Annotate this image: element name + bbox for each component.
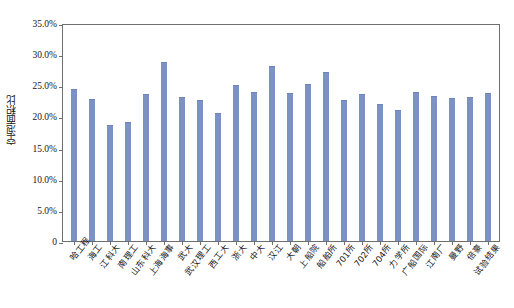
bar[interactable] (143, 94, 149, 241)
y-axis-tick-label: 5.0% (37, 206, 57, 216)
y-axis-tick-label: 20.0% (32, 112, 57, 122)
bar-slot (209, 25, 227, 241)
bar-slot (371, 25, 389, 241)
bar-chart: 空泡面积比 05.0%10.0%15.0%20.0%25.0%30.0%35.0… (0, 0, 514, 308)
bar[interactable] (215, 113, 221, 241)
y-axis-tick-mark (59, 212, 63, 213)
bar-slot (299, 25, 317, 241)
bar-slot (461, 25, 479, 241)
bar[interactable] (287, 93, 293, 241)
y-axis-tick-mark (59, 25, 63, 26)
bar-slot (119, 25, 137, 241)
bar-slot (353, 25, 371, 241)
x-axis-tick-labels: 哈工程海工江科大南理工山东科大上海海事武大武汉理工西工大浙大中大汉江大朝上船院船… (62, 243, 500, 308)
plot-area (62, 24, 500, 242)
y-axis-tick-label: 25.0% (32, 81, 57, 91)
bar-slot (173, 25, 191, 241)
bar-slot (155, 25, 173, 241)
bar-slot (407, 25, 425, 241)
bar[interactable] (269, 66, 275, 241)
bar[interactable] (89, 99, 95, 241)
bar[interactable] (323, 72, 329, 241)
y-axis-title: 空泡面积比 (6, 95, 22, 145)
bar-slot (83, 25, 101, 241)
bar[interactable] (197, 100, 203, 241)
bar[interactable] (359, 94, 365, 241)
bar[interactable] (485, 93, 491, 241)
bar-slot (65, 25, 83, 241)
bar[interactable] (395, 110, 401, 241)
bar-slot (191, 25, 209, 241)
bar-series (63, 25, 499, 241)
y-axis-tick-label: 30.0% (32, 50, 57, 60)
bar[interactable] (233, 85, 239, 241)
bar-slot (137, 25, 155, 241)
bar-slot (101, 25, 119, 241)
y-axis-tick-label: 0 (52, 237, 57, 247)
bar[interactable] (413, 92, 419, 241)
bar[interactable] (341, 100, 347, 241)
bar-slot (227, 25, 245, 241)
bar[interactable] (305, 84, 311, 241)
y-axis-tick-mark (59, 181, 63, 182)
y-axis-tick-mark (59, 87, 63, 88)
bar-slot (335, 25, 353, 241)
bar-slot (479, 25, 497, 241)
bar[interactable] (467, 97, 473, 241)
bar[interactable] (179, 97, 185, 241)
y-axis-tick-mark (59, 118, 63, 119)
y-axis-tick-mark (59, 150, 63, 151)
y-axis-tick-label: 15.0% (32, 144, 57, 154)
bar-slot (389, 25, 407, 241)
bar[interactable] (107, 125, 113, 241)
bar-slot (317, 25, 335, 241)
bar-slot (263, 25, 281, 241)
bar[interactable] (449, 98, 455, 241)
bar-slot (443, 25, 461, 241)
y-axis-tick-mark (59, 56, 63, 57)
bar-slot (281, 25, 299, 241)
bar[interactable] (431, 96, 437, 241)
y-axis-tick-label: 10.0% (32, 175, 57, 185)
y-axis-tick-labels: 05.0%10.0%15.0%20.0%25.0%30.0%35.0% (22, 0, 60, 308)
bar[interactable] (161, 62, 167, 241)
y-axis-tick-label: 35.0% (32, 19, 57, 29)
bar[interactable] (125, 122, 131, 241)
bar[interactable] (251, 92, 257, 241)
bar-slot (245, 25, 263, 241)
bar[interactable] (71, 89, 77, 241)
bar-slot (425, 25, 443, 241)
bar[interactable] (377, 104, 383, 241)
